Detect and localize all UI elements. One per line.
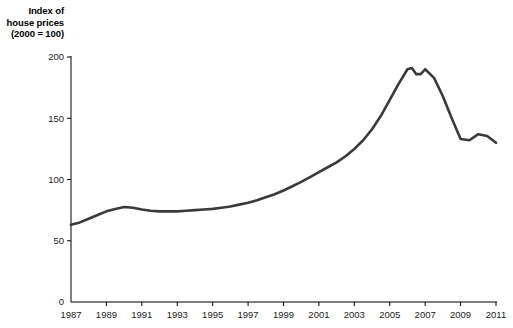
house-price-index-line [71, 68, 496, 225]
house-price-index-chart: Index of house prices (2000 = 100) 05010… [0, 0, 513, 328]
x-axis-tick-label: 1999 [273, 309, 294, 320]
x-axis-tick-label: 2001 [308, 309, 329, 320]
data-series-group [71, 68, 496, 225]
x-axis-tick-label: 1995 [202, 309, 223, 320]
x-axis-tick-label: 2003 [344, 309, 365, 320]
y-axis-tick-label: 200 [48, 51, 64, 62]
chart-title: Index of house prices (2000 = 100) [0, 5, 64, 40]
chart-title-line-1: Index of [0, 5, 64, 17]
y-axis-tick-label: 100 [48, 174, 64, 185]
chart-title-line-2: house prices [0, 17, 64, 29]
y-axis-tick-label: 50 [53, 235, 64, 246]
x-axis-tick-label: 1989 [96, 309, 117, 320]
plot-area: 050100150200 198719891991199319951997199… [0, 0, 513, 328]
x-axis-tick-label: 2005 [379, 309, 400, 320]
x-axis: 1987198919911993199519971999200120032005… [60, 302, 506, 320]
chart-title-line-3: (2000 = 100) [0, 28, 64, 40]
y-axis: 050100150200 [48, 51, 71, 307]
x-axis-tick-label: 2007 [415, 309, 436, 320]
x-axis-tick-label: 1997 [238, 309, 259, 320]
y-axis-tick-label: 150 [48, 113, 64, 124]
x-axis-tick-label: 2009 [450, 309, 471, 320]
y-axis-tick-label: 0 [59, 296, 64, 307]
x-axis-tick-label: 1991 [131, 309, 152, 320]
x-axis-tick-label: 2011 [486, 309, 506, 320]
x-axis-tick-label: 1993 [167, 309, 188, 320]
x-axis-tick-label: 1987 [60, 309, 81, 320]
